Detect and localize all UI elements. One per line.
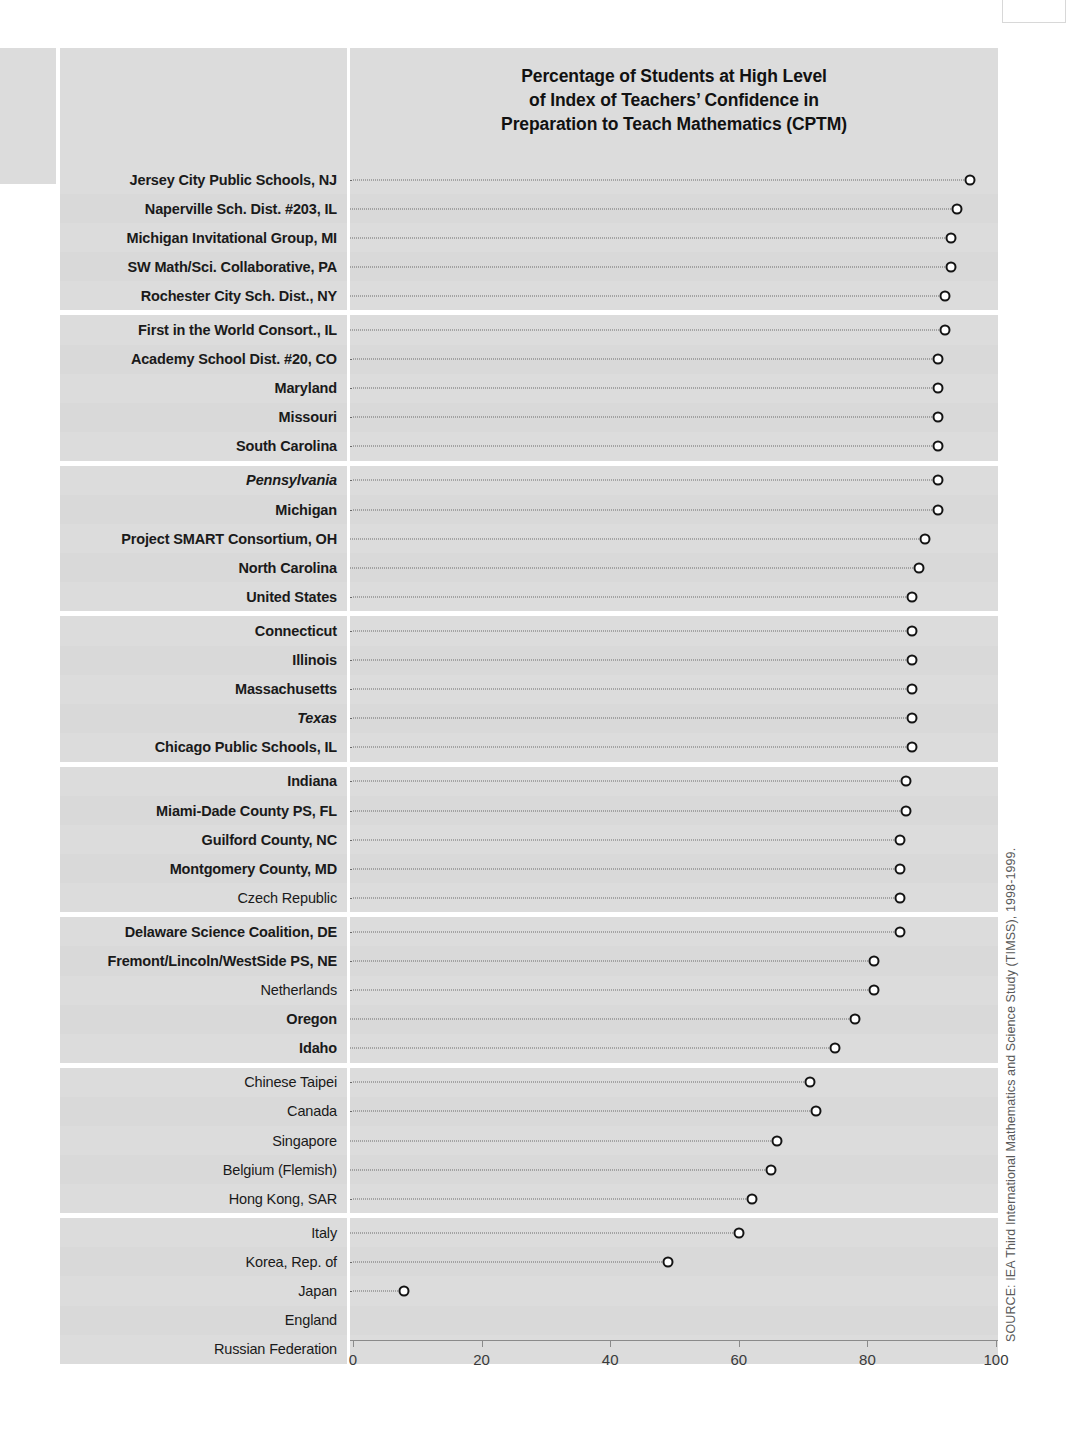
data-point-marker[interactable]	[810, 1106, 821, 1117]
chart-row: Netherlands	[60, 976, 998, 1005]
row-label-cell: Fremont/Lincoln/WestSide PS, NE	[60, 946, 347, 975]
chart-row: Academy School Dist. #20, CO	[60, 345, 998, 374]
leader-line	[350, 538, 921, 539]
row-label: Texas	[297, 710, 337, 726]
data-point-marker[interactable]	[920, 533, 931, 544]
row-label: Russian Federation	[214, 1341, 337, 1357]
source-note: SOURCE: IEA Third International Mathemat…	[1004, 742, 1018, 1342]
page-edge-marker	[1002, 0, 1066, 23]
row-label-cell: Delaware Science Coalition, DE	[60, 917, 347, 946]
data-point-marker[interactable]	[939, 325, 950, 336]
chart-row: Czech Republic	[60, 883, 998, 912]
row-plot-cell	[350, 1184, 998, 1213]
data-point-marker[interactable]	[765, 1164, 776, 1175]
data-point-marker[interactable]	[907, 684, 918, 695]
row-plot-cell	[350, 917, 998, 946]
data-point-marker[interactable]	[933, 441, 944, 452]
data-point-marker[interactable]	[907, 713, 918, 724]
x-axis-tick-label: 40	[602, 1351, 619, 1368]
row-label-cell: Chicago Public Schools, IL	[60, 733, 347, 762]
row-label-cell: Michigan	[60, 495, 347, 524]
data-point-marker[interactable]	[939, 290, 950, 301]
data-point-marker[interactable]	[894, 926, 905, 937]
data-point-marker[interactable]	[933, 354, 944, 365]
row-plot-cell	[350, 1034, 998, 1063]
row-plot-cell	[350, 825, 998, 854]
data-point-marker[interactable]	[894, 863, 905, 874]
data-point-marker[interactable]	[894, 892, 905, 903]
row-label: South Carolina	[236, 438, 337, 454]
row-label: North Carolina	[238, 560, 337, 576]
row-label-cell: Hong Kong, SAR	[60, 1184, 347, 1213]
chart-row: Michigan Invitational Group, MI	[60, 223, 998, 252]
data-point-marker[interactable]	[907, 655, 918, 666]
data-point-marker[interactable]	[952, 203, 963, 214]
data-point-marker[interactable]	[945, 232, 956, 243]
data-point-marker[interactable]	[945, 261, 956, 272]
data-point-marker[interactable]	[907, 591, 918, 602]
chart-row: England	[60, 1306, 998, 1335]
chart-row: Japan	[60, 1276, 998, 1305]
chart-row: Naperville Sch. Dist. #203, IL	[60, 194, 998, 223]
chart-row: SW Math/Sci. Collaborative, PA	[60, 252, 998, 281]
chart-row: Fremont/Lincoln/WestSide PS, NE	[60, 946, 998, 975]
leader-line	[350, 509, 934, 510]
row-label-cell: Maryland	[60, 374, 347, 403]
data-point-marker[interactable]	[900, 776, 911, 787]
leader-line	[350, 1169, 767, 1170]
chart-title-line-1: Percentage of Students at High Level	[350, 64, 998, 88]
data-point-marker[interactable]	[830, 1043, 841, 1054]
data-point-marker[interactable]	[894, 834, 905, 845]
row-label-cell: England	[60, 1306, 347, 1335]
data-point-marker[interactable]	[868, 985, 879, 996]
row-label-cell: United States	[60, 582, 347, 611]
data-point-marker[interactable]	[849, 1014, 860, 1025]
data-point-marker[interactable]	[746, 1193, 757, 1204]
data-point-marker[interactable]	[900, 805, 911, 816]
data-point-marker[interactable]	[663, 1256, 674, 1267]
data-point-marker[interactable]	[965, 174, 976, 185]
chart-group: Delaware Science Coalition, DEFremont/Li…	[60, 917, 998, 1062]
row-plot-cell	[350, 315, 998, 344]
data-point-marker[interactable]	[733, 1227, 744, 1238]
data-point-marker[interactable]	[933, 504, 944, 515]
row-label-cell: SW Math/Sci. Collaborative, PA	[60, 252, 347, 281]
row-plot-cell	[350, 194, 998, 223]
row-label: Pennsylvania	[246, 472, 337, 488]
data-point-marker[interactable]	[868, 955, 879, 966]
chart-row: Texas	[60, 704, 998, 733]
row-label-cell: Russian Federation	[60, 1335, 347, 1364]
data-point-marker[interactable]	[772, 1135, 783, 1146]
x-axis-tick	[610, 1340, 611, 1347]
row-label: Project SMART Consortium, OH	[121, 531, 337, 547]
row-plot-cell	[350, 854, 998, 883]
row-plot-cell	[350, 796, 998, 825]
data-point-marker[interactable]	[907, 625, 918, 636]
leader-line	[350, 689, 908, 690]
data-point-marker[interactable]	[907, 742, 918, 753]
chart-row: Jersey City Public Schools, NJ	[60, 165, 998, 194]
data-point-marker[interactable]	[933, 412, 944, 423]
leader-line	[350, 1232, 735, 1233]
data-point-marker[interactable]	[913, 562, 924, 573]
leader-line	[350, 417, 934, 418]
chart-row: United States	[60, 582, 998, 611]
row-label: Korea, Rep. of	[246, 1254, 337, 1270]
row-plot-cell	[350, 1068, 998, 1097]
row-label: Rochester City Sch. Dist., NY	[141, 288, 337, 304]
row-plot-cell	[350, 976, 998, 1005]
data-point-marker[interactable]	[399, 1286, 410, 1297]
row-label: Fremont/Lincoln/WestSide PS, NE	[107, 953, 337, 969]
chart-row: Oregon	[60, 1005, 998, 1034]
data-point-marker[interactable]	[933, 383, 944, 394]
row-plot-cell	[350, 403, 998, 432]
x-axis-tick	[996, 1340, 997, 1347]
data-point-marker[interactable]	[804, 1077, 815, 1088]
chart-row: Canada	[60, 1097, 998, 1126]
row-label-cell: Italy	[60, 1218, 347, 1247]
data-point-marker[interactable]	[933, 475, 944, 486]
row-label-cell: Missouri	[60, 403, 347, 432]
row-label: Czech Republic	[238, 890, 337, 906]
row-plot-cell	[350, 553, 998, 582]
leader-line	[350, 960, 870, 961]
